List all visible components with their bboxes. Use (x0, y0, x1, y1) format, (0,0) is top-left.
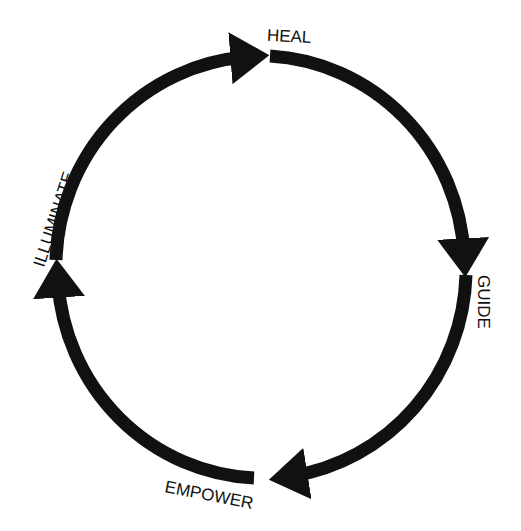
arrow-guide-to-empower (292, 275, 466, 476)
label-guide: GUIDE (474, 275, 493, 329)
label-heal: HEAL (267, 26, 312, 47)
arrow-empower-to-illuminate (58, 282, 254, 478)
arrow-illuminate-to-heal (56, 57, 246, 260)
arrow-heal-to-guide (270, 56, 464, 254)
cycle-diagram: HEAL GUIDE EMPOWER ILLUMINATE (0, 0, 521, 531)
